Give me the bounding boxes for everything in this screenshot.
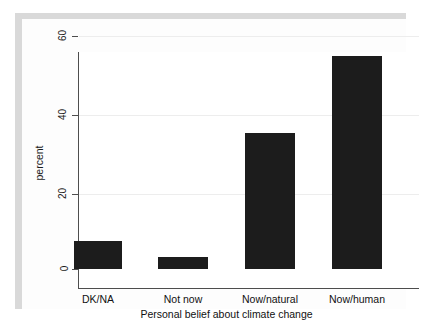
y-tick-label-40-text: 40	[57, 109, 68, 120]
gridline-60	[79, 36, 419, 37]
y-tick-mark-40	[72, 115, 78, 116]
y-tick-label-0: 0	[22, 263, 68, 274]
x-axis-line	[78, 288, 419, 289]
x-tick-label-now-human: Now/human	[317, 293, 397, 305]
y-axis-title: percent	[16, 157, 62, 169]
bar-now-natural	[245, 133, 295, 269]
bar-dk-na	[74, 241, 122, 269]
x-tick-label-now-natural: Now/natural	[230, 293, 310, 305]
x-axis-title: Personal belief about climate change	[56, 308, 397, 320]
graph-card: 60 40 20 0 percent DK/NA Not now Now/nat…	[22, 19, 406, 309]
y-tick-mark-20	[72, 194, 78, 195]
y-tick-label-40: 40	[22, 109, 68, 120]
y-tick-label-60: 60	[22, 30, 68, 41]
x-tick-label-dk-na: DK/NA	[58, 293, 138, 305]
chart-screenshot: 60 40 20 0 percent DK/NA Not now Now/nat…	[0, 0, 421, 325]
y-tick-label-60-text: 60	[57, 30, 68, 41]
y-tick-mark-60	[72, 36, 78, 37]
bar-not-now	[158, 257, 208, 269]
y-axis-title-text: percent	[33, 145, 45, 180]
y-tick-label-20-text: 20	[57, 188, 68, 199]
y-tick-label-0-text: 0	[60, 266, 71, 272]
x-tick-label-not-now: Not now	[143, 293, 223, 305]
y-tick-mark-0	[72, 269, 78, 270]
y-tick-label-20: 20	[22, 188, 68, 199]
bar-now-human	[332, 56, 382, 269]
